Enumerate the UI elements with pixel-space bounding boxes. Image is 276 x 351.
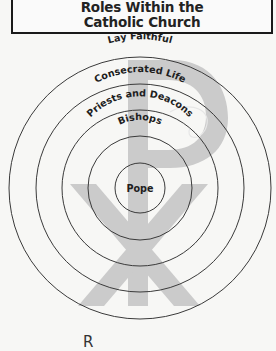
title-line-2: Catholic Church: [84, 15, 201, 30]
partial-footer-text: R: [83, 333, 93, 351]
label-pope: Pope: [127, 183, 154, 194]
title-box: Roles Within the Catholic Church: [11, 0, 273, 34]
title-line-1: Roles Within the: [81, 0, 204, 15]
